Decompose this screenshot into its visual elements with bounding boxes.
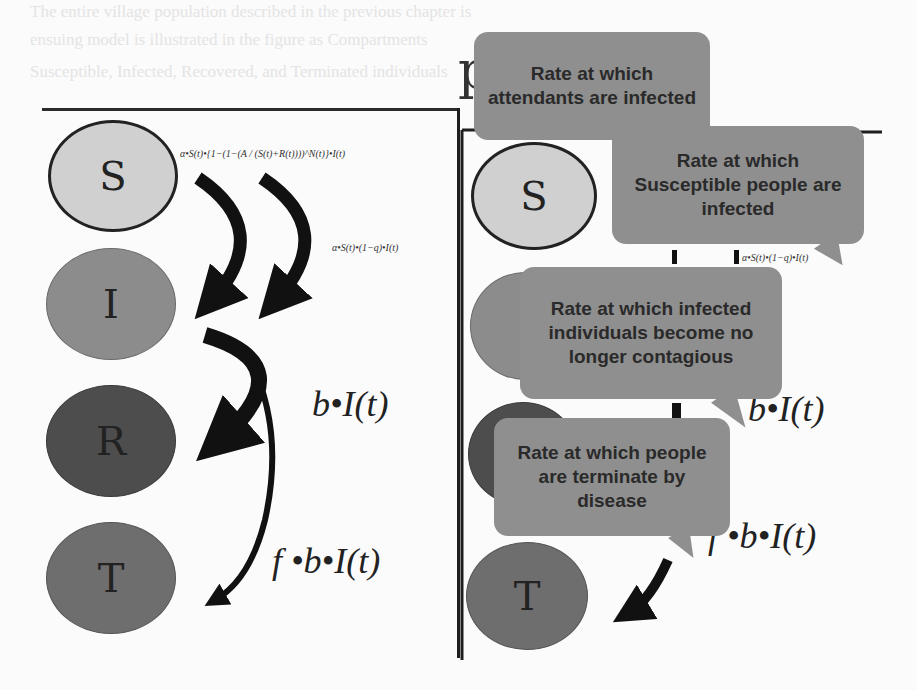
arrow-s-to-i-2 <box>262 178 305 300</box>
arrow-right-i-to-t <box>630 560 668 612</box>
callout-no-longer-contagious: Rate at which infected individuals becom… <box>520 267 782 399</box>
callout-text: Rate at which infected individuals becom… <box>530 297 772 369</box>
arrow-right-fragment <box>672 250 677 264</box>
right-node-susceptible: S <box>471 142 597 250</box>
arrow-i-to-r <box>205 335 259 440</box>
callout-text: Rate at which Susceptible people are inf… <box>622 149 854 221</box>
right-formula-susceptible-infection: α•S(t)•(1−q)•I(t) <box>742 252 808 263</box>
callout-attendants-infected: Rate at which attendants are infected <box>474 32 710 140</box>
callout-susceptible-infected: Rate at which Susceptible people are inf… <box>612 126 864 244</box>
callout-terminated-by-disease: Rate at which people are terminate by di… <box>494 418 730 536</box>
callout-text: Rate at which attendants are infected <box>484 62 700 110</box>
arrow-right-fragment <box>734 250 739 264</box>
arrow-s-to-i-1 <box>198 178 240 300</box>
right-node-terminated: T <box>466 542 588 650</box>
arrow-i-to-t <box>215 360 272 600</box>
callout-text: Rate at which people are terminate by di… <box>504 441 720 513</box>
